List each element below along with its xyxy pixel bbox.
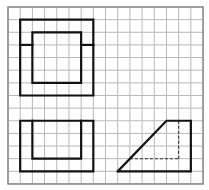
orthographic-views-diagram (0, 0, 209, 190)
